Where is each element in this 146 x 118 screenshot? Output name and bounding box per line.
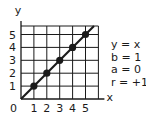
intercept-text: a = 0 bbox=[111, 64, 146, 77]
x-axis-label: x bbox=[106, 91, 113, 104]
y-axis-label: y bbox=[15, 4, 22, 17]
x-tick-label: 5 bbox=[82, 102, 89, 115]
data-point bbox=[82, 31, 89, 38]
y-tick-label: 1 bbox=[9, 80, 16, 93]
x-tick-label: 2 bbox=[43, 102, 50, 115]
y-tick-label: 5 bbox=[9, 29, 16, 42]
data-point bbox=[30, 83, 37, 90]
x-tick-label: 4 bbox=[69, 102, 76, 115]
origin-label: 0 bbox=[10, 102, 17, 115]
data-point bbox=[43, 70, 50, 77]
data-point bbox=[69, 44, 76, 51]
correlation-text: r = +1 bbox=[111, 77, 146, 90]
y-tick-label: 4 bbox=[9, 41, 16, 54]
statistics-legend: y = x b = 1 a = 0 r = +1 bbox=[111, 39, 146, 89]
x-tick-label: 3 bbox=[56, 102, 63, 115]
y-tick-label: 3 bbox=[9, 54, 16, 67]
x-tick-label: 1 bbox=[30, 102, 37, 115]
equation-text: y = x bbox=[111, 39, 146, 52]
data-point bbox=[56, 57, 63, 64]
y-tick-label: 2 bbox=[9, 67, 16, 80]
